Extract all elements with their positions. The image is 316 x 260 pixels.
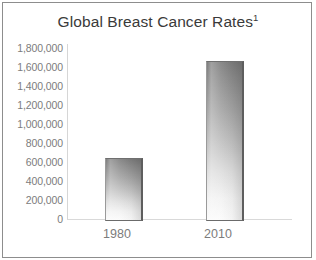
y-tick-label: 400,000: [3, 175, 63, 187]
y-tick-label: 1,800,000: [3, 42, 63, 54]
bar-1980[interactable]: [105, 158, 143, 221]
bar-2010[interactable]: [206, 61, 244, 221]
chart-title-text: Global Breast Cancer Rates: [58, 13, 254, 30]
y-tick-label: 200,000: [3, 194, 63, 206]
y-tick-label: 1,400,000: [3, 80, 63, 92]
y-axis-tick-labels: 1,800,000 1,600,000 1,400,000 1,200,000 …: [3, 3, 63, 258]
y-tick-label: 1,000,000: [3, 118, 63, 130]
y-tick-label: 0: [3, 213, 63, 225]
y-tick-label: 1,200,000: [3, 99, 63, 111]
y-tick-label: 1,600,000: [3, 61, 63, 73]
plot-area: [67, 44, 305, 221]
y-tick-label: 800,000: [3, 137, 63, 149]
x-tick-label-1980: 1980: [85, 227, 149, 241]
chart-frame: Global Breast Cancer Rates1 1,800,000 1,…: [2, 2, 312, 258]
x-tick-label-2010: 2010: [186, 227, 250, 241]
y-tick-label: 600,000: [3, 156, 63, 168]
chart-title-footnote-marker: 1: [253, 12, 258, 23]
